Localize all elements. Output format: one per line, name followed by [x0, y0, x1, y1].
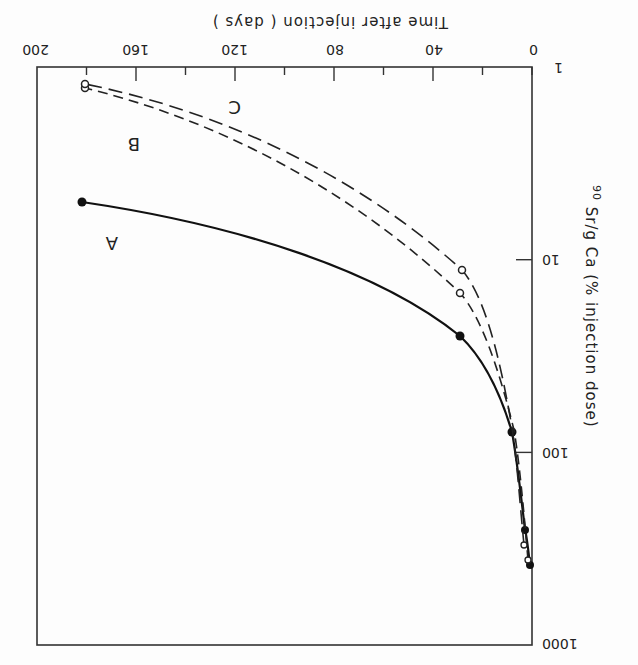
curve-label-b: B — [128, 134, 140, 155]
y-tick-1: 1 — [554, 60, 563, 76]
x-tick-0: 0 — [529, 42, 538, 58]
curve-label-a: A — [105, 233, 118, 254]
x-tick-120: 120 — [221, 42, 248, 58]
x-tick-80: 80 — [326, 42, 344, 58]
curve-b — [82, 85, 532, 564]
x-tick-40: 40 — [425, 42, 443, 58]
plot-frame — [37, 67, 532, 645]
rotated-figure: 0 40 80 120 160 200 Time after injection… — [0, 0, 638, 665]
y-label-superscript: 90 — [590, 185, 603, 201]
y-tick-100: 100 — [542, 445, 569, 461]
x-tick-200: 200 — [22, 42, 49, 58]
x-axis-label: Time after injection ( days ) — [212, 13, 449, 31]
y-label-main: Sr/g Ca (% injection dose) — [582, 207, 600, 428]
svg-text:90 Sr/g Ca (% injectio: 90 Sr/g Ca (% injection dose) — [582, 185, 607, 428]
x-axis: 0 40 80 120 160 200 Time after injection… — [22, 13, 538, 81]
chart: 0 40 80 120 160 200 Time after injection… — [0, 0, 638, 665]
y-tick-1000: 1000 — [542, 636, 578, 652]
curve-label-c: C — [228, 97, 241, 118]
x-tick-160: 160 — [122, 42, 149, 58]
curve-a — [78, 198, 535, 570]
y-tick-10: 10 — [542, 252, 560, 268]
y-axis-label: 90 Sr/g Ca (% injection dose) — [582, 185, 607, 428]
curve-c — [82, 81, 528, 549]
